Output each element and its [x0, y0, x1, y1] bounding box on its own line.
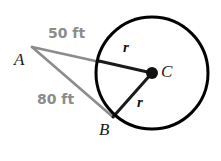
geometry-figure: A B C r r 50 ft 80 ft: [0, 0, 221, 161]
radius-to-center-top: [99, 61, 152, 73]
radius-b-to-center: [113, 73, 152, 117]
measurement-label-50ft: 50 ft: [48, 26, 85, 40]
radius-label-bottom: r: [137, 95, 143, 110]
point-label-a: A: [14, 51, 24, 68]
point-label-c: C: [161, 63, 172, 80]
center-point-dot: [146, 67, 158, 79]
radius-label-top: r: [123, 40, 129, 55]
measurement-label-80ft: 80 ft: [37, 92, 74, 106]
point-label-b: B: [99, 121, 109, 138]
geometry-canvas: [0, 0, 221, 161]
